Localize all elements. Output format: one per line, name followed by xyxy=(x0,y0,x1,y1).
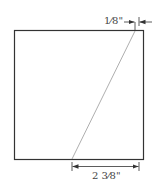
diagram-canvas xyxy=(0,0,161,185)
square-outline xyxy=(15,31,144,160)
bottom-dimension-label: 2 3⁄8" xyxy=(92,171,121,181)
diagonal-line xyxy=(72,31,135,159)
top-dimension-label: 1⁄8" xyxy=(104,16,123,26)
top-dimension xyxy=(124,17,152,30)
